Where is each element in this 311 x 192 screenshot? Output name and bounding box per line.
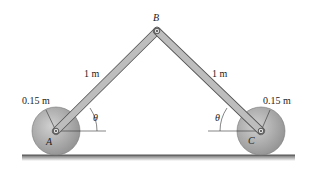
label-angle-c: θ <box>215 113 220 123</box>
label-length-ab: 1 m <box>84 69 99 79</box>
angle-arc-c <box>220 108 227 131</box>
label-radius-a: 0.15 m <box>22 96 50 106</box>
pin-a <box>53 128 59 134</box>
label-length-bc: 1 m <box>212 69 227 79</box>
ground-surface <box>22 155 295 161</box>
label-pin-a: A <box>46 137 52 147</box>
mechanism-diagram: B A C 1 m 1 m 0.15 m 0.15 m θ θ <box>0 0 311 192</box>
label-pin-c: C <box>248 136 255 146</box>
label-angle-a: θ <box>93 113 98 123</box>
label-pin-b: B <box>153 13 159 23</box>
pin-c <box>258 128 264 134</box>
label-radius-c: 0.15 m <box>263 96 291 106</box>
pin-b <box>154 28 160 34</box>
